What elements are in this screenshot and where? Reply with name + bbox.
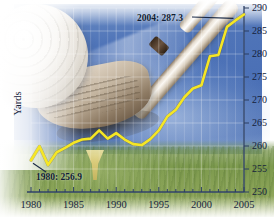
y-tick-label: 270 <box>252 94 267 105</box>
y-tick-label: 285 <box>252 25 267 36</box>
y-axis-title: Yards <box>12 81 23 127</box>
y-tick-label: 255 <box>252 163 267 174</box>
gridlines <box>31 8 244 192</box>
y-tick-label: 280 <box>252 48 267 59</box>
y-tick-label: 290 <box>252 2 267 13</box>
y-tick-label: 250 <box>252 186 267 197</box>
axes <box>27 6 244 192</box>
series-line-shadow <box>31 14 244 164</box>
x-tick-label: 1985 <box>59 199 89 210</box>
x-tick-label: 2005 <box>229 199 259 210</box>
y-tick-label: 275 <box>252 71 267 82</box>
chart-svg <box>0 0 274 217</box>
x-tick-marks <box>31 187 244 192</box>
annotation-1980: 1980: 256.9 <box>36 172 82 182</box>
series-line <box>31 14 244 164</box>
annotation-2004: 2004: 287.3 <box>137 13 183 23</box>
x-tick-label: 2000 <box>186 199 216 210</box>
x-tick-label: 1980 <box>16 199 46 210</box>
y-tick-label: 265 <box>252 117 267 128</box>
x-tick-label: 1990 <box>101 199 131 210</box>
golf-driving-distance-chart: 290285280275270265260255250 198019851990… <box>0 0 274 217</box>
y-tick-label: 260 <box>252 140 267 151</box>
y-tick-marks <box>244 8 249 192</box>
x-tick-label: 1995 <box>144 199 174 210</box>
